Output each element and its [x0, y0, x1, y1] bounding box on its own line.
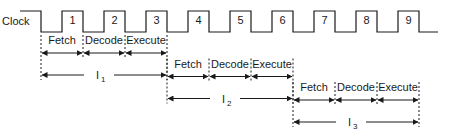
stage-label-fetch: Fetch — [48, 34, 76, 46]
cycle-number: 8 — [363, 14, 369, 26]
instruction-subscript: 1 — [101, 75, 106, 84]
pipeline-timing-diagram: Clock 123456789 FetchDecodeExecuteI1Fetc… — [0, 0, 454, 138]
instruction-subscript: 3 — [353, 122, 358, 131]
stage-label-decode: Decode — [211, 58, 249, 70]
instruction-row: FetchDecodeExecuteI2 — [167, 58, 293, 108]
cycle-number: 2 — [111, 14, 117, 26]
stage-label-execute: Execute — [126, 34, 166, 46]
cycle-labels: 123456789 — [69, 14, 411, 26]
stage-label-decode: Decode — [337, 81, 375, 93]
instruction-row: FetchDecodeExecuteI3 — [293, 81, 419, 131]
stage-label-fetch: Fetch — [174, 58, 202, 70]
instruction-label: I — [348, 116, 351, 128]
clock-label: Clock — [2, 15, 30, 27]
cycle-number: 3 — [153, 14, 159, 26]
stage-label-execute: Execute — [378, 81, 418, 93]
instruction-label: I — [96, 69, 99, 81]
instruction-subscript: 2 — [227, 99, 232, 108]
cycle-number: 7 — [321, 14, 327, 26]
instruction-row: FetchDecodeExecuteI1 — [41, 34, 167, 84]
cycle-number: 6 — [279, 14, 285, 26]
clock-waveform — [20, 11, 438, 32]
stage-label-fetch: Fetch — [300, 81, 328, 93]
cycle-number: 9 — [405, 14, 411, 26]
cycle-number: 4 — [195, 14, 201, 26]
cycle-number: 1 — [69, 14, 75, 26]
cycle-number: 5 — [237, 14, 243, 26]
stage-label-decode: Decode — [85, 34, 123, 46]
instruction-rows: FetchDecodeExecuteI1FetchDecodeExecuteI2… — [41, 34, 419, 131]
stage-label-execute: Execute — [252, 58, 292, 70]
instruction-label: I — [222, 93, 225, 105]
